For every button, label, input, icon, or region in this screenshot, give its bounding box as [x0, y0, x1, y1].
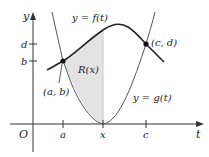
tick-label-d: d	[21, 39, 27, 50]
tick-label-a: a	[60, 129, 66, 140]
tick-label-x: x	[100, 129, 106, 140]
area-between-curves-diagram: y t O a x c d b y = f(t) y = g(t) R(x) (…	[0, 0, 209, 157]
y-axis-arrow-icon	[30, 12, 36, 20]
tick-label-c: c	[143, 129, 149, 140]
region-label: R(x)	[77, 64, 99, 75]
leader-a-b	[59, 64, 62, 83]
x-axis-label: t	[196, 128, 201, 141]
point-a-b	[60, 58, 65, 63]
x-axis-arrow-icon	[196, 121, 204, 127]
point-label-c-d: (c, d)	[151, 37, 177, 48]
tick-label-b: b	[21, 56, 27, 67]
point-c-d	[143, 41, 148, 46]
point-label-a-b: (a, b)	[43, 86, 70, 97]
origin-label: O	[19, 128, 28, 141]
f-curve-label: y = f(t)	[71, 12, 108, 23]
g-curve-label: y = g(t)	[132, 92, 172, 103]
y-axis-label: y	[22, 10, 30, 23]
